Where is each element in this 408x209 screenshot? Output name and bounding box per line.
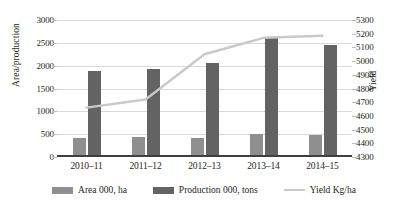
y-axis-right-tick-label: 4500 xyxy=(356,126,396,135)
y-axis-left-tick-label: 3000 xyxy=(8,16,54,25)
plot-area xyxy=(57,20,352,157)
y-axis-right-tick-label: 4400 xyxy=(356,139,396,148)
y-axis-right-tick-label: 5300 xyxy=(356,16,396,25)
yield-line-path xyxy=(87,36,323,108)
chart-container: Area/production Yield 050010001500200025… xyxy=(0,0,408,209)
x-axis-baseline xyxy=(57,155,352,157)
y-axis-right-tick-mark xyxy=(352,143,356,144)
y-axis-right-tick-mark xyxy=(352,47,356,48)
y-axis-left-tick-label: 0 xyxy=(8,153,54,162)
legend-color-swatch xyxy=(153,187,174,194)
y-axis-left-tick-label: 500 xyxy=(8,130,54,139)
y-axis-right-tick-mark xyxy=(352,20,356,21)
legend-color-swatch xyxy=(52,187,73,194)
legend-label: Area 000, ha xyxy=(78,185,127,195)
chart-legend: Area 000, haProduction 000, tonsYield Kg… xyxy=(0,185,408,195)
x-axis-tick-label: 2011–12 xyxy=(116,161,176,171)
y-axis-right-tick-label: 4800 xyxy=(356,85,396,94)
y-axis-right-tick-mark xyxy=(352,116,356,117)
y-axis-right-tick-label: 4600 xyxy=(356,112,396,121)
y-axis-right-tick-mark xyxy=(352,61,356,62)
y-axis-right-tick-mark xyxy=(352,102,356,103)
legend-line-swatch xyxy=(284,189,305,192)
yield-line-series xyxy=(57,20,352,157)
x-axis-tick-label: 2014–15 xyxy=(293,161,353,171)
y-axis-left-tick-label: 1000 xyxy=(8,107,54,116)
y-axis-right-tick-label: 4700 xyxy=(356,98,396,107)
y-axis-right-tick-mark xyxy=(352,89,356,90)
legend-item[interactable]: Production 000, tons xyxy=(153,185,258,195)
y-axis-right-tick-mark xyxy=(352,75,356,76)
y-axis-left-tick-label: 2000 xyxy=(8,62,54,71)
y-axis-right-tick-label: 4300 xyxy=(356,153,396,162)
y-axis-right-tick-label: 5100 xyxy=(356,43,396,52)
y-axis-left-tick-label: 2500 xyxy=(8,39,54,48)
y-axis-left-tick-mark xyxy=(53,157,57,158)
y-axis-right-tick-label: 4900 xyxy=(356,71,396,80)
y-axis-left-tick-label: 1500 xyxy=(8,85,54,94)
y-axis-right-tick-mark xyxy=(352,157,356,158)
y-axis-right-tick-label: 5200 xyxy=(356,30,396,39)
x-axis-tick-label: 2010–11 xyxy=(57,161,117,171)
legend-item[interactable]: Yield Kg/ha xyxy=(284,185,356,195)
x-axis-tick-label: 2012–13 xyxy=(175,161,235,171)
legend-label: Production 000, tons xyxy=(179,185,258,195)
y-axis-right-tick-label: 5000 xyxy=(356,57,396,66)
x-axis-tick-label: 2013–14 xyxy=(234,161,294,171)
legend-label: Yield Kg/ha xyxy=(310,185,356,195)
y-axis-right-tick-mark xyxy=(352,130,356,131)
legend-item[interactable]: Area 000, ha xyxy=(52,185,127,195)
y-axis-right-tick-mark xyxy=(352,34,356,35)
